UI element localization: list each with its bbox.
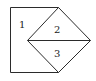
region-label-2: 2 (54, 24, 60, 35)
region-label-3: 3 (54, 48, 60, 59)
geometry-diagram: 1 2 3 (0, 0, 96, 81)
region-label-1: 1 (19, 19, 25, 30)
